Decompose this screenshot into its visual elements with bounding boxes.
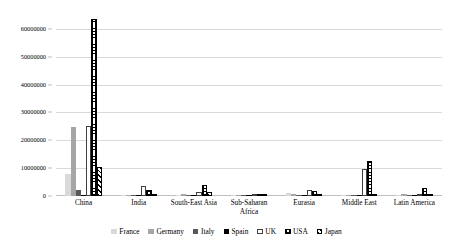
- legend-item-germany[interactable]: Germany: [148, 228, 184, 235]
- x-tick-label: China: [56, 199, 111, 216]
- legend-item-france[interactable]: France: [111, 228, 139, 235]
- x-tick-label: Eurasia: [277, 199, 332, 216]
- legend-swatch-icon: [317, 229, 323, 235]
- bar-group: [277, 15, 332, 196]
- legend-label: France: [119, 228, 139, 235]
- legend: FranceGermanyItalySpainUKUSAJapan: [0, 228, 453, 235]
- legend-swatch-icon: [257, 229, 263, 235]
- y-tick-mark: [48, 84, 52, 85]
- y-tick-label: 10000000: [21, 165, 46, 171]
- x-axis: ChinaIndiaSouth-East AsiaSub-Saharan Afr…: [56, 199, 442, 216]
- bar-japan: [427, 194, 432, 196]
- y-tick-mark: [48, 196, 52, 197]
- legend-label: Japan: [325, 228, 342, 235]
- bar-group: [387, 15, 442, 196]
- legend-swatch-icon: [285, 229, 291, 235]
- legend-swatch-icon: [148, 229, 154, 235]
- x-tick-label: Middle East: [332, 199, 387, 216]
- legend-swatch-icon: [111, 229, 117, 235]
- y-tick-label: 20000000: [21, 137, 46, 143]
- y-tick-mark: [48, 168, 52, 169]
- bar-usa: [367, 161, 372, 196]
- bar-japan: [97, 167, 102, 196]
- plot-area: [56, 15, 442, 196]
- legend-swatch-icon: [224, 229, 230, 235]
- bar-germany: [71, 127, 76, 196]
- legend-label: Spain: [232, 228, 249, 235]
- bar-groups: [56, 15, 442, 196]
- x-tick-label: South-East Asia: [166, 199, 221, 216]
- bar-group: [111, 15, 166, 196]
- legend-label: USA: [293, 228, 308, 235]
- x-tick-label: Latin America: [387, 199, 442, 216]
- bar-japan: [262, 194, 267, 196]
- bar-group: [56, 15, 111, 196]
- legend-label: UK: [265, 228, 276, 235]
- y-tick-label: 30000000: [21, 109, 46, 115]
- bar-chart: 0100000002000000030000000400000005000000…: [0, 0, 453, 250]
- y-tick-mark: [48, 28, 52, 29]
- legend-item-usa[interactable]: USA: [285, 228, 308, 235]
- legend-label: Italy: [201, 228, 215, 235]
- y-tick-label: 50000000: [21, 54, 46, 60]
- bar-group: [166, 15, 221, 196]
- y-tick-label: 0: [43, 193, 46, 199]
- legend-item-spain[interactable]: Spain: [224, 228, 249, 235]
- bar-group: [332, 15, 387, 196]
- bar-japan: [372, 194, 377, 196]
- legend-item-uk[interactable]: UK: [257, 228, 276, 235]
- y-tick-label: 40000000: [21, 81, 46, 87]
- y-tick-label: 60000000: [21, 26, 46, 32]
- bar-japan: [207, 192, 212, 196]
- y-tick-mark: [48, 112, 52, 113]
- legend-item-italy[interactable]: Italy: [193, 228, 215, 235]
- legend-item-japan[interactable]: Japan: [317, 228, 342, 235]
- y-axis: 0100000002000000030000000400000005000000…: [0, 15, 52, 196]
- x-tick-label: India: [111, 199, 166, 216]
- y-tick-mark: [48, 140, 52, 141]
- y-tick-mark: [48, 56, 52, 57]
- legend-swatch-icon: [193, 229, 199, 235]
- x-tick-label: Sub-Saharan Africa: [221, 199, 276, 216]
- bar-japan: [152, 194, 157, 196]
- bar-group: [221, 15, 276, 196]
- bar-japan: [317, 194, 322, 196]
- legend-label: Germany: [156, 228, 184, 235]
